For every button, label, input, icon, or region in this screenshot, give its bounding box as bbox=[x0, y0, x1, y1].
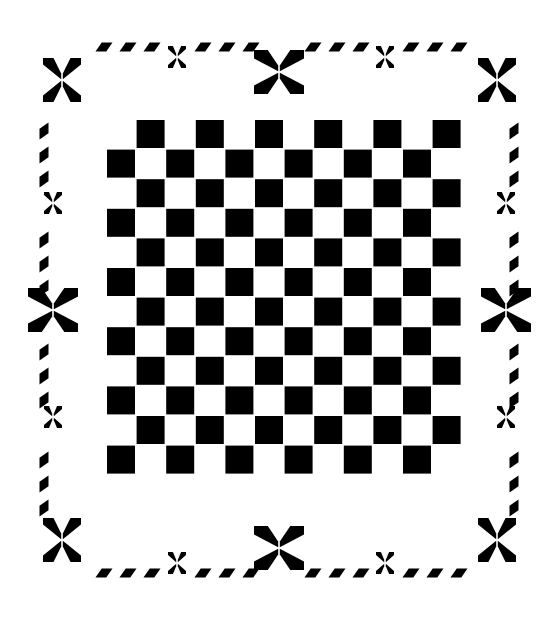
checker-square bbox=[314, 298, 342, 326]
checker-square bbox=[285, 327, 313, 355]
checker-square bbox=[225, 150, 253, 178]
checker-square bbox=[137, 357, 165, 385]
checker-square bbox=[255, 416, 283, 444]
checkerboard-field bbox=[107, 120, 461, 474]
checker-square bbox=[403, 150, 431, 178]
checker-square bbox=[255, 298, 283, 326]
checker-square bbox=[373, 416, 401, 444]
checker-square bbox=[433, 238, 461, 266]
checker-square bbox=[255, 120, 283, 148]
checker-square bbox=[433, 120, 461, 148]
checker-square bbox=[314, 238, 342, 266]
checker-square bbox=[107, 150, 135, 178]
checker-square bbox=[196, 120, 224, 148]
checker-square bbox=[196, 238, 224, 266]
checker-square bbox=[196, 179, 224, 207]
checker-square bbox=[403, 327, 431, 355]
checker-square bbox=[107, 446, 135, 474]
pattern-artboard bbox=[0, 0, 558, 617]
checker-square bbox=[433, 357, 461, 385]
checker-square bbox=[344, 327, 372, 355]
checker-square bbox=[225, 268, 253, 296]
checker-square bbox=[196, 298, 224, 326]
checker-square bbox=[166, 150, 194, 178]
checker-square bbox=[166, 446, 194, 474]
checker-square bbox=[137, 120, 165, 148]
checker-square bbox=[403, 209, 431, 237]
checker-square bbox=[344, 446, 372, 474]
checker-square bbox=[137, 179, 165, 207]
checker-square bbox=[166, 327, 194, 355]
checker-square bbox=[433, 416, 461, 444]
checker-square bbox=[166, 386, 194, 414]
checker-square bbox=[255, 357, 283, 385]
checker-square bbox=[314, 357, 342, 385]
checker-square bbox=[314, 120, 342, 148]
checker-square bbox=[166, 209, 194, 237]
checker-square bbox=[285, 386, 313, 414]
checkerboard-layer bbox=[0, 0, 558, 617]
checker-square bbox=[285, 446, 313, 474]
checker-square bbox=[225, 386, 253, 414]
checker-square bbox=[225, 327, 253, 355]
checker-square bbox=[373, 298, 401, 326]
checker-square bbox=[196, 416, 224, 444]
checker-square bbox=[285, 209, 313, 237]
checker-square bbox=[225, 446, 253, 474]
checker-square bbox=[373, 179, 401, 207]
artwork-canvas bbox=[0, 0, 558, 617]
checker-square bbox=[403, 446, 431, 474]
checker-square bbox=[403, 268, 431, 296]
checker-square bbox=[373, 357, 401, 385]
checker-square bbox=[344, 386, 372, 414]
checker-square bbox=[344, 268, 372, 296]
checker-square bbox=[255, 238, 283, 266]
checker-square bbox=[373, 238, 401, 266]
checker-square bbox=[107, 268, 135, 296]
checker-square bbox=[107, 327, 135, 355]
checker-square bbox=[314, 179, 342, 207]
checker-square bbox=[344, 209, 372, 237]
checker-square bbox=[225, 209, 253, 237]
checker-square bbox=[166, 268, 194, 296]
checker-square bbox=[344, 150, 372, 178]
checker-square bbox=[433, 298, 461, 326]
checker-square bbox=[107, 209, 135, 237]
checker-square bbox=[137, 416, 165, 444]
checker-square bbox=[403, 386, 431, 414]
checker-square bbox=[107, 386, 135, 414]
checker-square bbox=[314, 416, 342, 444]
checker-square bbox=[373, 120, 401, 148]
checker-square bbox=[137, 238, 165, 266]
checker-square bbox=[137, 298, 165, 326]
checker-square bbox=[255, 179, 283, 207]
checker-square bbox=[285, 268, 313, 296]
checker-square bbox=[285, 150, 313, 178]
checker-square bbox=[433, 179, 461, 207]
checker-square bbox=[196, 357, 224, 385]
